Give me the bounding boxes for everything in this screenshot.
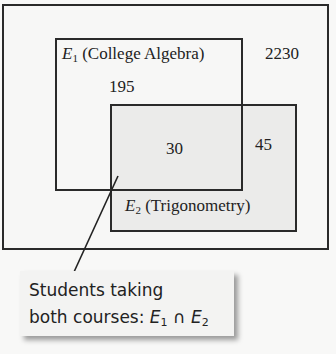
callout-expr-b: E — [191, 307, 202, 327]
callout-expr-a-sub: 1 — [161, 316, 168, 329]
callout-box: Students taking both courses: E1 ∩ E2 — [20, 271, 234, 336]
callout-line-1: Students taking — [29, 277, 225, 304]
callout-expr-b-sub: 2 — [202, 316, 209, 329]
callout-prefix: both courses: — [29, 307, 150, 327]
callout-line-2: both courses: E1 ∩ E2 — [29, 304, 225, 336]
intersection-symbol: ∩ — [173, 307, 185, 327]
callout-expr-a: E — [150, 307, 161, 327]
